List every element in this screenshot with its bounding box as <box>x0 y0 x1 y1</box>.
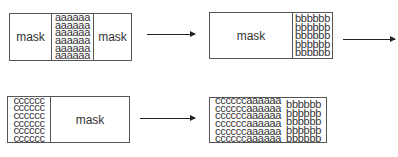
mask-region: mask <box>210 13 292 58</box>
stage-3-box: cccccc cccccc cccccc cccccc cccccc ccccc… <box>7 96 130 143</box>
a-region: aaaaaa aaaaaa aaaaaa aaaaaa aaaaaa aaaaa… <box>51 14 93 60</box>
arrow-right-icon <box>140 118 195 119</box>
mask-label: mask <box>237 29 266 43</box>
combined-result-box: cccccc cccccc cccccc cccccc cccccc ccccc… <box>209 97 327 143</box>
c-text-block: cccccc cccccc cccccc cccccc cccccc ccccc… <box>215 97 246 143</box>
mask-label: mask <box>98 30 127 44</box>
c-text-block: cccccc cccccc cccccc cccccc cccccc ccccc… <box>13 97 44 143</box>
stage-2-box: mask bbbbbb bbbbbb bbbbbb bbbbbb bbbbbb <box>209 12 333 59</box>
mask-label: mask <box>16 30 45 44</box>
mask-label: mask <box>76 113 105 127</box>
b-region: bbbbbb bbbbbb bbbbbb bbbbbb bbbbbb <box>292 13 332 58</box>
a-text-block: aaaaaa aaaaaa aaaaaa aaaaaa aaaaaa aaaaa… <box>55 14 90 60</box>
mask-region-left: mask <box>10 14 51 60</box>
mask-region-right: mask <box>93 14 131 60</box>
arrow-right-icon <box>343 39 395 40</box>
mask-region: mask <box>50 97 129 142</box>
stage-1-box: mask aaaaaa aaaaaa aaaaaa aaaaaa aaaaaa … <box>9 13 132 61</box>
arrow-right-icon <box>147 34 195 35</box>
a-text-block: aaaaaa aaaaaa aaaaaa aaaaaa aaaaaa aaaaa… <box>246 97 281 143</box>
c-region: cccccc cccccc cccccc cccccc cccccc ccccc… <box>8 97 50 142</box>
b-text-block: bbbbbb bbbbbb bbbbbb bbbbbb bbbbbb <box>295 14 330 56</box>
b-text-block: bbbbbb bbbbbb bbbbbb bbbbbb bbbbbb <box>286 100 321 143</box>
